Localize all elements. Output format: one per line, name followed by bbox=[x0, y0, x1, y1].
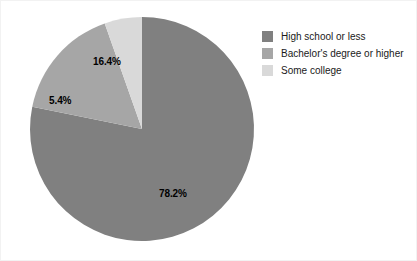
legend-swatch-high-school-or-less bbox=[262, 31, 273, 42]
legend-label-high-school-or-less: High school or less bbox=[281, 31, 365, 42]
pie-chart-figure: 78.2% 16.4% 5.4% High school or less Bac… bbox=[0, 0, 417, 261]
legend-swatch-some-college bbox=[262, 65, 273, 76]
legend-item-some-college[interactable]: Some college bbox=[262, 63, 404, 77]
legend-swatch-bachelors-degree-or-higher bbox=[262, 48, 273, 59]
slice-data-label-bachelors-degree-or-higher: 16.4% bbox=[93, 56, 121, 67]
legend-item-bachelors-degree-or-higher[interactable]: Bachelor's degree or higher bbox=[262, 46, 404, 60]
legend-label-bachelors-degree-or-higher: Bachelor's degree or higher bbox=[281, 48, 404, 59]
slice-data-label-high-school-or-less: 78.2% bbox=[159, 188, 187, 199]
legend-item-high-school-or-less[interactable]: High school or less bbox=[262, 29, 404, 43]
slice-data-label-some-college: 5.4% bbox=[49, 95, 71, 106]
chart-legend: High school or less Bachelor's degree or… bbox=[262, 29, 404, 77]
legend-label-some-college: Some college bbox=[281, 65, 342, 76]
